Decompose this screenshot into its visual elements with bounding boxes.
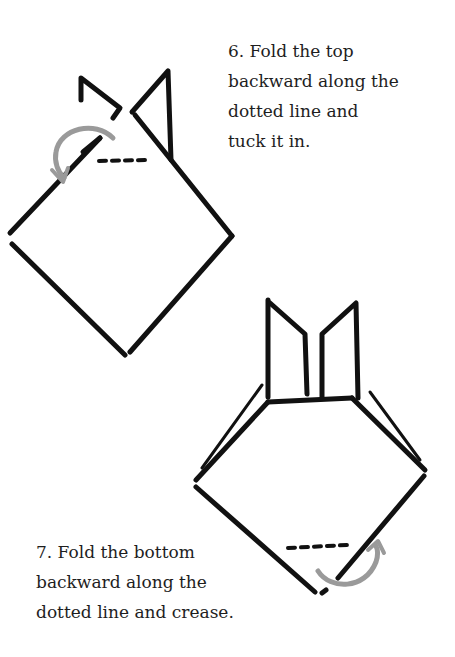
step-7-instructions: 7. Fold the bottom backward along the do…	[36, 537, 234, 627]
step-6-line-2: backward along the	[228, 66, 399, 96]
step6-left-lower-edge	[12, 244, 125, 355]
step6-fold-line	[99, 160, 146, 161]
step-6-instructions: 6. Fold the top backward along the dotte…	[228, 36, 399, 156]
step-7-line-3: dotted line and crease.	[36, 597, 234, 627]
step-7-line-1: 7. Fold the bottom	[36, 537, 234, 567]
step-7-line-2: backward along the	[36, 567, 234, 597]
step7-top-edge	[268, 398, 352, 402]
step-6-line-4: tuck it in.	[228, 126, 399, 156]
step-6-line-1: 6. Fold the top	[228, 36, 399, 66]
step6-left-ear	[81, 78, 120, 118]
step6-right-upper-edge	[135, 115, 232, 236]
step7-right-lower-edge	[338, 476, 424, 578]
step7-fold-line	[288, 545, 347, 548]
step7-right-ear	[322, 303, 358, 398]
step6-right-lower-edge	[130, 236, 232, 352]
step-6-line-3: dotted line and	[228, 96, 399, 126]
